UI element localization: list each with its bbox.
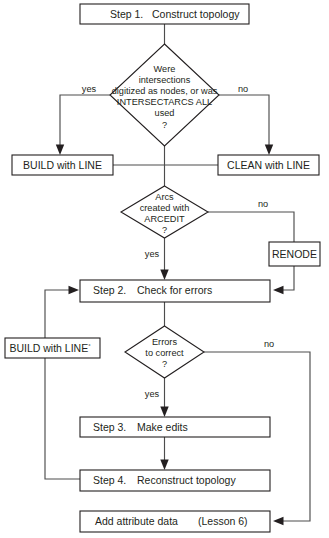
arrowhead-no-to-attribute [273, 517, 284, 525]
step2-text: Check for errors [137, 284, 212, 296]
arrowhead-to-build-top [56, 145, 64, 156]
node-build-with-line-left: BUILD with LINE° [5, 338, 100, 358]
renode-label: RENODE [272, 248, 317, 260]
connector-step4-feedback-to-step2 [45, 290, 80, 479]
arrowhead-step3-to-step4 [160, 460, 168, 471]
build-left-label-group: BUILD with LINE° [9, 342, 91, 354]
decision2-line-3: ARCEDIT [144, 214, 185, 224]
step3-step-label: Step 3. [93, 421, 126, 433]
add-attribute-text: Add attribute data [95, 515, 178, 527]
decision1-line-6: ? [162, 120, 167, 130]
decision2-line-1: Arcs [155, 192, 174, 202]
decision2-line-2: created with [140, 203, 190, 213]
arrowhead-feedback-to-step2 [69, 286, 80, 294]
step1-step-label: Step 1. [110, 8, 143, 20]
step3-text: Make edits [137, 421, 188, 433]
node-step4: Step 4. Reconstruct topology [80, 470, 270, 491]
decision1-line-3: digitized as nodes, or was [112, 86, 218, 96]
flowchart-canvas: Step 1. Construct topology Were intersec… [0, 0, 329, 538]
decision1-line-2: intersections [139, 75, 191, 85]
arrowhead-renode-to-step2 [273, 286, 284, 294]
build-top-label: BUILD with LINE [23, 159, 102, 171]
node-step2: Step 2. Check for errors [80, 280, 270, 302]
decision1-line-4: INTERSECTARCS ALL [117, 97, 212, 107]
node-clean-with-line: CLEAN with LINE [218, 155, 319, 175]
add-attribute-note: (Lesson 6) [198, 515, 248, 527]
connector-decision1-yes-to-build [60, 95, 110, 147]
decision3-line-2: to correct [145, 348, 184, 358]
step1-text: Construct topology [152, 8, 240, 20]
decision2-line-4: ? [162, 225, 167, 235]
node-decision3: Errors to correct ? [125, 326, 204, 378]
arrowhead-to-clean [265, 145, 273, 156]
node-decision2: Arcs created with ARCEDIT ? [121, 186, 208, 238]
step4-step-label: Step 4. [93, 474, 126, 486]
node-add-attribute-data: Add attribute data (Lesson 6) [80, 511, 270, 532]
node-step3: Step 3. Make edits [80, 417, 270, 437]
connector-decision1-no-to-clean [219, 95, 269, 147]
arrowhead-decision3-to-step3 [160, 407, 168, 418]
node-build-with-line-top: BUILD with LINE [12, 155, 113, 175]
connector-decision2-no-to-renode [208, 212, 294, 242]
edge-label-decision3-no: no [264, 339, 274, 349]
decision1-line-1: Were [154, 64, 176, 74]
node-decision1: Were intersections digitized as nodes, o… [110, 44, 219, 146]
step2-step-label: Step 2. [93, 284, 126, 296]
decision1-line-5: used [155, 108, 175, 118]
edge-label-decision2-yes: yes [145, 249, 160, 259]
step4-text: Reconstruct topology [137, 474, 236, 486]
arrowhead-decision2-to-step2 [160, 270, 168, 281]
node-step1: Step 1. Construct topology [80, 4, 249, 24]
node-renode: RENODE [269, 242, 320, 266]
build-left-label: BUILD with LINE [9, 342, 88, 354]
decision3-line-3: ? [162, 359, 167, 369]
edge-label-decision1-no: no [238, 84, 248, 94]
edge-label-decision3-yes: yes [145, 389, 160, 399]
edge-label-decision1-yes: yes [82, 84, 97, 94]
flowchart-diagram: Step 1. Construct topology Were intersec… [0, 0, 329, 538]
clean-label: CLEAN with LINE [227, 159, 310, 171]
edge-label-decision2-no: no [258, 199, 268, 209]
decision3-line-1: Errors [152, 337, 177, 347]
